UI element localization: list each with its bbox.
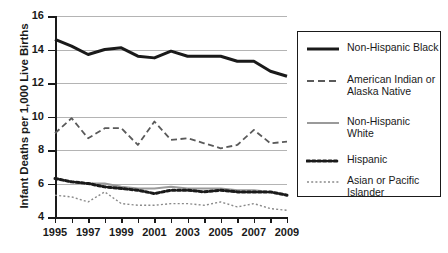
series-line-american-indian-or-alaska-native [55,118,287,148]
y-axis-tick-label: 14 [24,43,44,55]
y-axis-tick [48,184,55,186]
series-line-asian-or-pacific-islander [55,192,287,210]
legend-item-label: Non-Hispanic Black [347,42,439,54]
y-axis-tick-label: 16 [24,9,44,21]
y-axis-tick-label: 10 [24,110,44,122]
legend-item: Non-Hispanic Black [306,42,439,56]
legend-item: American Indian orAlaska Native [306,74,435,98]
legend-line-sample-icon [306,74,340,88]
legend-line-sample-icon [306,42,340,56]
chart-legend: Non-Hispanic BlackAmerican Indian orAlas… [297,31,441,197]
legend-label-line: Islander [347,187,419,199]
x-axis-tick [270,218,271,223]
y-axis-tick-label: 6 [24,177,44,189]
y-axis-tick [48,117,55,119]
infant-mortality-line-chart: Infant Deaths per 1,000 Live Births Non-… [0,0,448,253]
x-axis-tick [55,218,56,223]
legend-item: Hispanic [306,154,387,168]
x-axis-tick [221,218,222,223]
y-axis-tick [48,150,55,152]
legend-label-line: Hispanic [347,154,387,166]
x-axis-tick [237,218,238,223]
legend-label-line: White [347,128,410,140]
legend-item-label: Asian or PacificIslander [347,175,419,199]
y-axis-tick-label: 4 [24,210,44,222]
series-line-non-hispanic-black [55,39,287,76]
legend-item-label: Hispanic [347,154,387,166]
legend-item: Asian or PacificIslander [306,175,419,199]
legend-label-line: Alaska Native [347,86,435,98]
x-axis-tick [188,218,189,223]
y-axis-tick-label: 8 [24,143,44,155]
x-axis-tick [88,218,89,223]
x-axis-tick [105,218,106,223]
legend-line-sample-icon [306,175,340,189]
y-axis-tick [48,217,55,219]
x-axis-tick [254,218,255,223]
y-axis-tick-label: 12 [24,76,44,88]
y-axis-tick [48,16,55,18]
legend-item-label: Non-HispanicWhite [347,116,410,140]
legend-label-line: Non-Hispanic Black [347,42,439,54]
y-axis-tick [48,83,55,85]
x-axis-tick [121,218,122,223]
x-axis-tick [287,218,288,223]
x-axis-tick [204,218,205,223]
series-canvas [55,16,287,217]
x-axis-tick [171,218,172,223]
x-axis-tick [154,218,155,223]
x-axis-tick [138,218,139,223]
legend-line-sample-icon [306,116,340,130]
y-axis-tick [48,50,55,52]
legend-item: Non-HispanicWhite [306,116,410,140]
legend-line-sample-icon [306,154,340,168]
x-axis-tick [72,218,73,223]
legend-item-label: American Indian orAlaska Native [347,74,435,98]
x-axis-tick-label: 2009 [266,226,308,238]
